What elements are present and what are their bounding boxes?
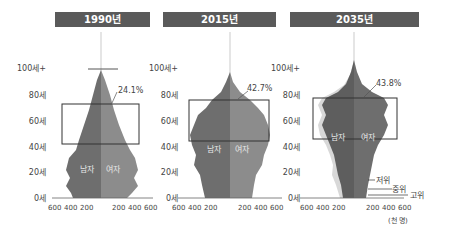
xtick: 400 xyxy=(254,204,267,212)
xtick: 400 xyxy=(188,204,201,212)
ytick-100: 100세+ xyxy=(260,62,300,73)
xtick: 600 xyxy=(270,204,283,212)
ytick-40: 40세 xyxy=(6,141,46,152)
male-label: 남자 xyxy=(207,143,221,154)
ytick-0: 0세 xyxy=(260,192,300,203)
ytick-60: 60세 xyxy=(6,115,46,126)
xtick: 400 xyxy=(128,204,141,212)
projection-low: 저위 xyxy=(376,174,390,185)
female-label: 여자 xyxy=(235,143,249,154)
ytick-20: 20세 xyxy=(6,166,46,177)
xtick: 600 xyxy=(398,204,411,212)
ytick-20: 20세 xyxy=(260,166,300,177)
xtick: 600 xyxy=(300,204,313,212)
xtick: 600 xyxy=(172,204,185,212)
pyramid-graphics xyxy=(0,0,452,236)
xtick: 400 xyxy=(316,204,329,212)
xtick: 200 xyxy=(366,204,379,212)
male-label: 남자 xyxy=(331,131,345,142)
xtick: 600 xyxy=(48,204,61,212)
female-label: 여자 xyxy=(361,131,375,142)
ytick-80: 80세 xyxy=(6,89,46,100)
xtick: 200 xyxy=(238,204,251,212)
ytick-0: 0세 xyxy=(6,192,46,203)
projection-mid: 중위 xyxy=(392,183,406,194)
ytick-40: 40세 xyxy=(260,141,300,152)
xtick: 400 xyxy=(64,204,77,212)
ytick-100: 100세+ xyxy=(138,62,178,73)
xtick: 600 xyxy=(144,204,157,212)
female-label: 여자 xyxy=(106,163,120,174)
xtick: 200 xyxy=(112,204,125,212)
xtick: 200 xyxy=(204,204,217,212)
xtick: 400 xyxy=(382,204,395,212)
ytick-100: 100세+ xyxy=(6,62,46,73)
ytick-80: 80세 xyxy=(138,89,178,100)
male-label: 남자 xyxy=(80,163,94,174)
ytick-0: 0세 xyxy=(138,192,178,203)
annotation-2015: 42.7% xyxy=(247,84,272,93)
projection-high: 고위 xyxy=(410,189,424,200)
ytick-60: 60세 xyxy=(260,115,300,126)
pyramid-2035 xyxy=(300,32,408,198)
ytick-40: 40세 xyxy=(138,141,178,152)
ytick-60: 60세 xyxy=(138,115,178,126)
ytick-20: 20세 xyxy=(138,166,178,177)
xtick: 200 xyxy=(332,204,345,212)
xtick: 200 xyxy=(80,204,93,212)
annotation-2035: 43.8% xyxy=(376,79,401,88)
annotation-1990: 24.1% xyxy=(118,86,143,95)
unit-label: (천 명) xyxy=(388,215,408,225)
